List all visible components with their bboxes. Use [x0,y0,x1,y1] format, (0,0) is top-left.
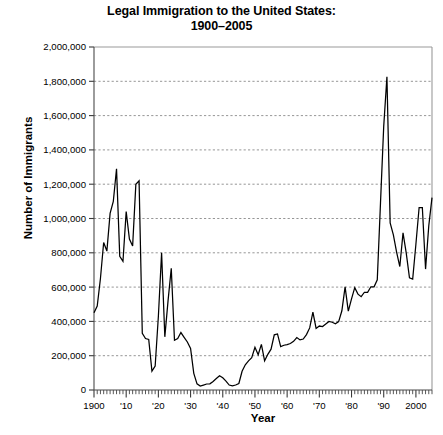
y-tick-label: 600,000 [51,282,86,293]
y-tick-label: 1,400,000 [43,144,86,155]
y-tick-label: 1,600,000 [43,110,86,121]
gridlines [94,81,432,355]
immigration-series-line [94,77,432,386]
x-tick-label: '40 [217,400,230,411]
x-tick-label: 2000 [405,400,426,411]
x-tick-label: '50 [249,400,262,411]
y-tick-label: 0 [81,384,86,395]
y-tick-label: 400,000 [51,316,86,327]
x-tick-label: '20 [152,400,165,411]
x-tick-label: '60 [281,400,294,411]
chart-figure: Legal Immigration to the United States: … [0,0,443,435]
x-tick-label: 1900 [83,400,104,411]
x-tick-label: '90 [377,400,390,411]
y-tick-label: 1,200,000 [43,179,86,190]
x-tick-label: '30 [184,400,197,411]
y-tick-label: 200,000 [51,350,86,361]
x-axis-tick-labels: 1900'10'20'30'40'50'60'70'80'902000 [83,400,426,411]
x-tick-label: '80 [345,400,358,411]
y-tick-label: 1,800,000 [43,76,86,87]
y-tick-label: 800,000 [51,247,86,258]
y-axis-tick-labels: 0200,000400,000600,000800,0001,000,0001,… [43,41,86,395]
x-tick-label: '10 [120,400,133,411]
x-axis-tick-marks [94,390,432,398]
y-tick-label: 2,000,000 [43,41,86,52]
x-tick-label: '70 [313,400,326,411]
y-axis-tick-marks [89,47,94,390]
y-tick-label: 1,000,000 [43,213,86,224]
plot-area: 0200,000400,000600,000800,0001,000,0001,… [0,0,443,435]
